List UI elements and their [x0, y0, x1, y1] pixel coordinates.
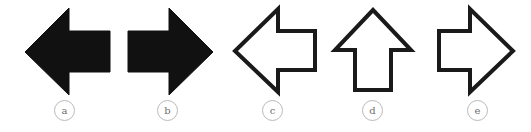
figure-label-e-text: e	[475, 106, 481, 116]
figure-label-b: b	[157, 100, 178, 121]
figure-label-b-text: b	[164, 106, 170, 116]
figure-label-e: e	[467, 100, 488, 121]
arrow-right-outline-icon	[413, 0, 531, 100]
figure-label-c-text: c	[270, 106, 276, 116]
figure-label-d-text: d	[369, 106, 375, 116]
figure-label-d: d	[362, 100, 383, 121]
figure-label-a-text: a	[62, 106, 68, 116]
figure-label-a: a	[54, 100, 75, 121]
figure-label-c: c	[262, 100, 283, 121]
figure-item-e: e	[413, 0, 531, 132]
arrow-figure-panel: a b c d e	[0, 0, 531, 132]
